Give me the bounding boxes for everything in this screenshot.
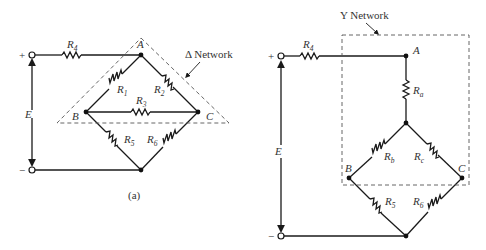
resistor-r4-b: [300, 53, 319, 59]
plus-sign: +: [268, 50, 274, 62]
terminal-plus-a: [29, 52, 35, 58]
resistor-r5-a: [106, 131, 118, 146]
node-c-y: [460, 176, 465, 181]
plus-sign: +: [19, 49, 25, 61]
resistor-r4-a: [62, 52, 81, 58]
resistor-r6-a: [163, 130, 176, 143]
node-label-b: B: [72, 110, 79, 122]
node-center-y: [404, 121, 409, 126]
terminal-minus-a: [29, 167, 35, 173]
node-a-y: [404, 54, 409, 59]
label-r6-a: R6: [146, 133, 158, 148]
resistor-r5-b: [370, 198, 382, 213]
source-label-e: E: [24, 108, 32, 120]
node-label-c: C: [206, 110, 214, 122]
node-c-delta: [196, 110, 201, 115]
source-label-e: E: [274, 145, 282, 157]
label-r3: R3: [135, 94, 147, 109]
node-a-delta: [139, 53, 144, 58]
delta-network-label: Δ Network: [185, 48, 233, 60]
resistor-r6-b: [428, 195, 441, 208]
node-bottom-delta: [139, 168, 144, 173]
delta-circuit: + − E A B C Δ Network (a) R4 R1 R2 R3 R5…: [19, 38, 233, 202]
resistor-r3: [131, 109, 150, 115]
resistor-ra: [403, 80, 409, 99]
label-rb: Rb: [383, 150, 395, 165]
terminal-plus-b: [278, 53, 284, 59]
resistor-r1: [109, 70, 122, 83]
label-ra: Ra: [412, 84, 424, 99]
label-r5-a: R5: [123, 133, 135, 148]
node-bottom-y: [404, 234, 409, 239]
label-r4-a: R4: [66, 38, 78, 53]
label-r4-b: R4: [302, 38, 314, 53]
minus-sign: −: [268, 230, 274, 242]
node-label-b: B: [345, 162, 352, 174]
label-r1: R1: [116, 83, 127, 98]
circuit-diagram: + − E A B C Δ Network (a) R4 R1 R2 R3 R5…: [0, 0, 486, 250]
node-label-a: A: [412, 44, 420, 56]
resistor-r2: [162, 75, 174, 90]
node-label-c: C: [458, 162, 466, 174]
resistor-rc: [427, 143, 439, 158]
figure-caption-a: (a): [128, 189, 141, 202]
minus-sign: −: [19, 164, 25, 176]
label-r2: R2: [153, 83, 165, 98]
y-circuit: + − E A B C Y Network R4 Ra Rb Rc R5 R6: [268, 9, 469, 242]
label-rc: Rc: [413, 150, 425, 165]
label-r6-b: R6: [412, 195, 424, 210]
node-label-a: A: [136, 38, 144, 50]
label-r5-b: R5: [384, 195, 396, 210]
terminal-minus-b: [278, 233, 284, 239]
node-b-y: [347, 176, 352, 181]
node-b-delta: [84, 110, 89, 115]
y-network-label: Y Network: [340, 9, 389, 21]
